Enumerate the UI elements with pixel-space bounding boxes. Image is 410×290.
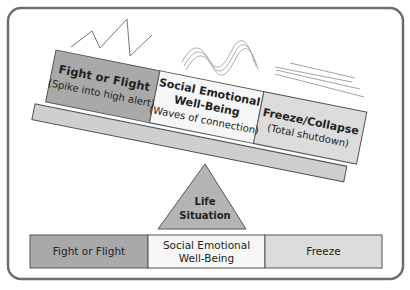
bottom-freeze-label: Freeze [306, 245, 340, 257]
balance-diagram: Fight or Flight (Spike into high alert) … [0, 0, 410, 290]
fulcrum-line2: Situation [179, 210, 230, 221]
bottom-fight-label: Fight or Flight [53, 245, 125, 257]
bottom-social-line1: Social Emotional [163, 239, 250, 251]
bottom-social-line2: Well-Being [179, 252, 234, 264]
fulcrum-line1: Life [195, 196, 216, 207]
